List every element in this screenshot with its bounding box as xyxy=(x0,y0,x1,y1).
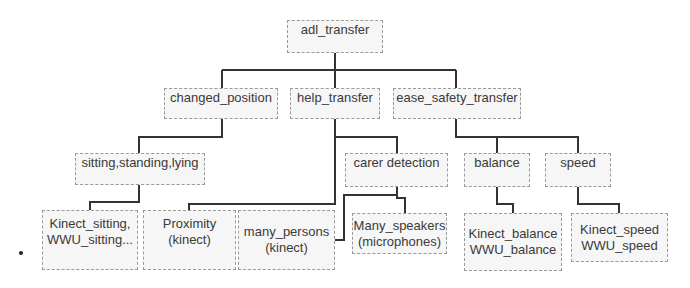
node-label-line2: WWU_speed xyxy=(581,238,658,254)
node-label-line2: WWU_balance xyxy=(470,242,557,258)
node-label: sitting,standing,lying xyxy=(76,155,204,171)
node-label: ease_safety_transfer xyxy=(394,90,520,106)
node-label-line2: (kinect) xyxy=(265,240,308,256)
node-many-persons: many_persons (kinect) xyxy=(238,210,335,270)
bullet-dot-icon xyxy=(19,251,23,255)
node-label-line1: Kinect_sitting, xyxy=(50,216,131,232)
node-label-line1: Proximity xyxy=(163,216,216,232)
node-adl-transfer: adl_transfer xyxy=(287,20,383,53)
node-speed: speed xyxy=(545,153,611,187)
node-many-speakers: Many_speakers (microphones) xyxy=(352,213,447,254)
node-label-line2: (microphones) xyxy=(358,234,441,250)
node-label: changed_position xyxy=(165,90,277,106)
node-carer-detection: carer detection xyxy=(345,153,448,187)
node-proximity: Proximity (kinect) xyxy=(143,210,236,270)
node-label: help_transfer xyxy=(291,90,379,106)
node-label: carer detection xyxy=(346,155,447,171)
node-kinect-balance: Kinect_balance WWU_balance xyxy=(464,213,562,271)
node-label: adl_transfer xyxy=(288,22,382,38)
node-label: speed xyxy=(546,155,610,171)
node-label-line2: (kinect) xyxy=(168,232,211,248)
tree-diagram: adl_transfer changed_position help_trans… xyxy=(0,0,690,288)
node-label-line1: Many_speakers xyxy=(354,218,446,234)
node-label-line2: WWU_sitting... xyxy=(47,232,133,248)
node-kinect-sitting: Kinect_sitting, WWU_sitting... xyxy=(42,210,138,270)
node-label: balance xyxy=(465,155,529,171)
node-kinect-speed: Kinect_speed WWU_speed xyxy=(571,213,668,262)
node-sitting-standing-lying: sitting,standing,lying xyxy=(75,153,205,185)
node-label-line1: many_persons xyxy=(244,224,329,240)
node-help-transfer: help_transfer xyxy=(290,88,380,119)
node-balance: balance xyxy=(464,153,530,187)
node-label-line1: Kinect_speed xyxy=(580,222,659,238)
node-changed-position: changed_position xyxy=(164,88,278,119)
node-ease-safety-transfer: ease_safety_transfer xyxy=(393,88,521,119)
node-label-line1: Kinect_balance xyxy=(469,226,558,242)
